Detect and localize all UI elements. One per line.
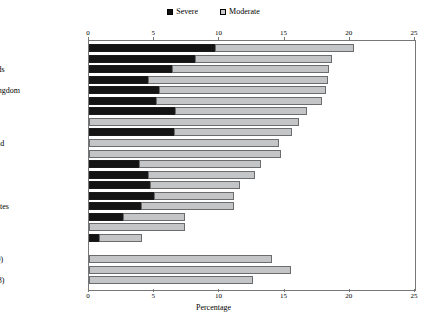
bar-segment-severe <box>89 55 195 63</box>
bar-segment-severe <box>89 192 154 200</box>
filled-square-icon <box>167 9 173 15</box>
category-label-text: Netherlands <box>0 64 5 75</box>
bar-rows: SwedenPortugalNetherlandsDenmarkUnited K… <box>0 40 427 289</box>
bar-segment-moderate <box>195 55 332 63</box>
axis-tick-mark <box>88 37 89 40</box>
category-label: Italy <box>0 212 86 223</box>
category-label: Switzerland <box>0 138 86 149</box>
chart-row: Germany <box>0 96 427 107</box>
bar-segment-severe <box>89 160 139 168</box>
hatched-square-icon <box>220 9 226 15</box>
bar-segment-severe <box>89 44 215 52</box>
category-label-text: OECD (19) <box>0 254 3 265</box>
bar-segment-severe <box>89 86 159 94</box>
chart-row: Australia <box>0 170 427 181</box>
bar-segment-moderate <box>89 223 185 231</box>
axis-tick-label: 25 <box>411 291 418 301</box>
legend-item-moderate: Moderate <box>220 8 260 16</box>
category-label-text: United Kingdom <box>0 85 20 96</box>
axis-tick-mark <box>284 37 285 40</box>
chart-row: United States <box>0 201 427 212</box>
stacked-bar-chart: Severe Moderate 0510152025 SwedenPortuga… <box>0 0 427 322</box>
category-label: Spain <box>0 180 86 191</box>
category-label: Portugal <box>0 54 86 65</box>
bar-segment-moderate <box>89 118 299 126</box>
chart-row: Belgium <box>0 191 427 202</box>
bar-segment-severe <box>89 202 141 210</box>
axis-tick-mark <box>284 289 285 292</box>
category-label: Australia <box>0 170 86 181</box>
axis-tick-label: 10 <box>215 291 222 301</box>
bar-segment-moderate <box>89 150 281 158</box>
category-label: United States <box>0 201 86 212</box>
chart-row: France <box>0 127 427 138</box>
bar-segment-moderate <box>156 97 323 105</box>
category-label: EU (11) <box>0 265 86 276</box>
category-label: France <box>0 127 86 138</box>
bar-segment-moderate <box>172 65 328 73</box>
bar-segment-moderate <box>141 202 234 210</box>
chart-row-spacer <box>0 243 427 254</box>
bar-segment-moderate <box>123 213 186 221</box>
chart-row: Korea <box>0 233 427 244</box>
category-label: OECD (19) <box>0 254 86 265</box>
x-axis-bottom: 0510152025 <box>88 291 414 301</box>
bar-segment-moderate <box>89 276 253 284</box>
axis-tick-mark <box>414 289 415 292</box>
category-label-text: Non-EU (8) <box>0 275 4 286</box>
category-label: Norway <box>0 106 86 117</box>
chart-row: Netherlands <box>0 64 427 75</box>
bar-segment-moderate <box>150 181 240 189</box>
chart-row: Austria <box>0 159 427 170</box>
axis-tick-mark <box>218 289 219 292</box>
bar-segment-moderate <box>99 234 142 242</box>
category-label: Netherlands <box>0 64 86 75</box>
category-label: Austria <box>0 159 86 170</box>
category-label-text: Switzerland <box>0 138 4 149</box>
chart-row: Canada <box>0 117 427 128</box>
bar-segment-severe <box>89 213 123 221</box>
chart-row: Italy <box>0 212 427 223</box>
chart-row: Spain <box>0 180 427 191</box>
chart-row: Portugal <box>0 54 427 65</box>
chart-row: Denmark <box>0 75 427 86</box>
axis-tick-mark <box>349 37 350 40</box>
chart-row: Sweden <box>0 43 427 54</box>
bar-segment-moderate <box>139 160 262 168</box>
chart-legend: Severe Moderate <box>0 8 427 16</box>
chart-row: OECD (19) <box>0 254 427 265</box>
category-label: Belgium <box>0 191 86 202</box>
bar-segment-moderate <box>89 139 279 147</box>
bar-segment-moderate <box>159 86 326 94</box>
bar-segment-moderate <box>89 266 291 274</box>
chart-row: Non-EU (8) <box>0 275 427 286</box>
axis-tick-mark <box>218 37 219 40</box>
category-label: Sweden <box>0 43 86 54</box>
axis-tick-label: 5 <box>151 291 155 301</box>
chart-row: United Kingdom <box>0 85 427 96</box>
chart-row: EU (11) <box>0 265 427 276</box>
category-label: Denmark <box>0 75 86 86</box>
legend-item-severe: Severe <box>167 8 198 16</box>
category-label: Poland <box>0 149 86 160</box>
category-label: Korea <box>0 233 86 244</box>
x-axis-top: 0510152025 <box>88 28 414 38</box>
bar-segment-severe <box>89 234 99 242</box>
category-label: United Kingdom <box>0 85 86 96</box>
category-label-text: United States <box>0 201 9 212</box>
bar-segment-moderate <box>174 128 293 136</box>
bar-segment-severe <box>89 97 156 105</box>
axis-tick-mark <box>414 37 415 40</box>
bar-segment-moderate <box>148 76 328 84</box>
axis-tick-label: 15 <box>280 291 287 301</box>
axis-tick-mark <box>153 289 154 292</box>
category-label: Mexico <box>0 222 86 233</box>
axis-tick-mark <box>153 37 154 40</box>
axis-tick-label: 0 <box>86 291 90 301</box>
chart-row: Switzerland <box>0 138 427 149</box>
chart-row: Mexico <box>0 222 427 233</box>
bar-segment-moderate <box>175 107 307 115</box>
bar-segment-severe <box>89 107 175 115</box>
bar-segment-severe <box>89 171 148 179</box>
category-label: Germany <box>0 96 86 107</box>
